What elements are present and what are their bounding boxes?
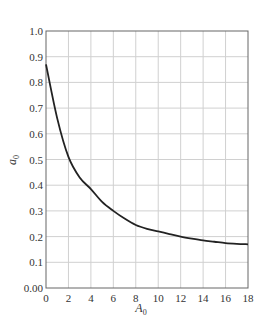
x-axis-label: A0 <box>134 301 146 317</box>
y-axis-label: a0 <box>5 155 21 165</box>
y-tick-label: 0.00 <box>24 282 44 294</box>
y-tick-label: 0.2 <box>29 231 43 243</box>
grid-lines <box>46 31 248 288</box>
x-tick-label: 0 <box>43 292 49 304</box>
x-tick-label: 2 <box>66 292 72 304</box>
y-tick-label: 0.5 <box>29 154 43 166</box>
x-tick-labels: 024681012141618 <box>43 292 254 304</box>
x-tick-label: 10 <box>153 292 165 304</box>
x-tick-label: 14 <box>198 292 210 304</box>
y-tick-label: 0.1 <box>29 256 43 268</box>
x-tick-label: 18 <box>243 292 255 304</box>
y-tick-label: 0.7 <box>29 102 43 114</box>
x-tick-label: 16 <box>220 292 232 304</box>
x-tick-label: 6 <box>111 292 117 304</box>
y-tick-label: 0.4 <box>29 179 43 191</box>
y-tick-label: 0.3 <box>29 205 43 217</box>
y-tick-label: 0.8 <box>29 76 43 88</box>
x-tick-label: 4 <box>88 292 94 304</box>
y-tick-label: 0.6 <box>29 128 43 140</box>
data-curve <box>46 64 248 244</box>
chart: 024681012141618 0.000.10.20.30.40.50.60.… <box>0 0 267 327</box>
x-tick-label: 12 <box>175 292 186 304</box>
y-tick-label: 1.0 <box>29 25 43 37</box>
y-tick-labels: 0.000.10.20.30.40.50.60.70.80.91.0 <box>24 25 44 294</box>
y-tick-label: 0.9 <box>29 51 43 63</box>
